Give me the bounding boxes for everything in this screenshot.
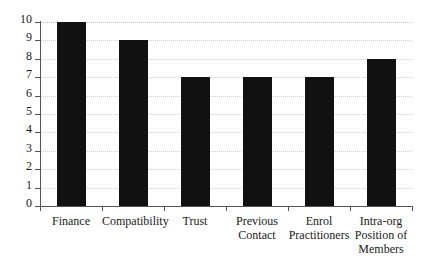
y-tick-label: 0 (26, 197, 32, 209)
x-axis-label: Intra-orgPosition ofMembers (350, 214, 412, 256)
bar (57, 22, 86, 206)
gridline (40, 96, 412, 97)
gridline (40, 188, 412, 189)
y-tick-mark (35, 114, 40, 115)
gridline (40, 22, 412, 23)
x-axis-label: Trust (164, 214, 226, 228)
y-tick-label: 8 (26, 50, 32, 62)
y-tick-mark (35, 77, 40, 78)
gridline (40, 59, 412, 60)
y-tick-label: 2 (26, 160, 32, 172)
gridline (40, 77, 412, 78)
x-axis-label-line: Practitioners (288, 228, 350, 242)
y-tick-label: 6 (26, 87, 32, 99)
x-tick-mark (412, 206, 413, 211)
x-axis-label-line: Enrol (288, 214, 350, 228)
x-tick-mark (102, 206, 103, 211)
bar (119, 40, 148, 206)
gridline (40, 151, 412, 152)
x-tick-mark (226, 206, 227, 211)
y-tick-label: 10 (20, 13, 32, 25)
x-axis-label-line: Trust (164, 214, 226, 228)
bar-chart: 012345678910 FinanceCompatibilityTrustPr… (0, 0, 435, 276)
y-tick-mark (35, 22, 40, 23)
y-tick-label: 5 (26, 105, 32, 117)
x-axis-label-line: Contact (226, 228, 288, 242)
gridline (40, 40, 412, 41)
x-axis-label-line: Position of (350, 228, 412, 242)
bar (243, 77, 272, 206)
bar (181, 77, 210, 206)
x-tick-mark (350, 206, 351, 211)
gridline (40, 169, 412, 170)
plot-area (40, 22, 412, 206)
y-tick-label: 7 (26, 68, 32, 80)
y-axis-line (40, 21, 41, 207)
x-tick-mark (164, 206, 165, 211)
x-axis-label-line: Finance (40, 214, 102, 228)
gridline (40, 114, 412, 115)
y-tick-mark (35, 169, 40, 170)
y-tick-label: 3 (26, 142, 32, 154)
x-axis-label: EnrolPractitioners (288, 214, 350, 242)
x-axis-label: Compatibility (102, 214, 164, 228)
x-axis-label-line: Intra-org (350, 214, 412, 228)
y-tick-label: 9 (26, 31, 32, 43)
x-axis-label-line: Members (350, 242, 412, 256)
x-tick-mark (40, 206, 41, 211)
y-tick-mark (35, 151, 40, 152)
gridline (40, 132, 412, 133)
x-axis-label: PreviousContact (226, 214, 288, 242)
y-tick-mark (35, 132, 40, 133)
x-tick-mark (288, 206, 289, 211)
bar (367, 59, 396, 206)
y-tick-mark (35, 59, 40, 60)
x-axis-label-line: Compatibility (102, 214, 164, 228)
y-tick-mark (35, 188, 40, 189)
y-tick-mark (35, 40, 40, 41)
x-axis-label: Finance (40, 214, 102, 228)
y-tick-label: 4 (26, 123, 32, 135)
x-axis-label-line: Previous (226, 214, 288, 228)
bar (305, 77, 334, 206)
y-tick-mark (35, 96, 40, 97)
y-tick-label: 1 (26, 179, 32, 191)
